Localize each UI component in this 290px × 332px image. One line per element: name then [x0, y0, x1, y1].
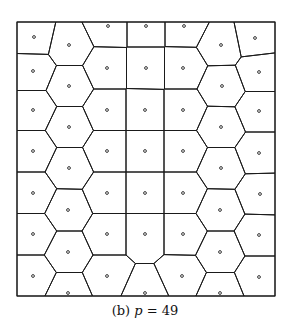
site-point — [221, 85, 224, 88]
caption-equation: = 49 — [147, 303, 179, 318]
site-point — [259, 193, 262, 196]
site-point — [144, 192, 147, 195]
voronoi-cell — [235, 132, 275, 174]
site-point — [106, 67, 109, 70]
site-point — [182, 67, 185, 70]
site-point — [68, 126, 71, 129]
voronoi-cell — [234, 214, 275, 256]
site-point — [145, 25, 148, 28]
site-point — [182, 233, 185, 236]
site-point — [106, 150, 109, 153]
site-point — [68, 85, 71, 88]
site-point — [219, 292, 222, 295]
voronoi-cell — [17, 214, 57, 256]
voronoi-cell — [17, 54, 56, 91]
voronoi-cell — [164, 214, 207, 256]
site-point — [220, 44, 223, 47]
voronoi-cell — [126, 214, 164, 264]
site-point — [258, 234, 261, 237]
site-point — [258, 152, 261, 155]
site-point — [32, 192, 35, 195]
site-point — [181, 275, 184, 278]
voronoi-cell — [83, 89, 126, 131]
site-point — [258, 276, 261, 279]
site-point — [144, 150, 147, 153]
site-point — [182, 150, 185, 153]
site-point — [219, 209, 222, 212]
caption-variable: p — [134, 303, 142, 318]
site-point — [106, 109, 109, 112]
site-point — [220, 126, 223, 129]
site-point — [144, 292, 147, 295]
voronoi-cell — [235, 173, 275, 215]
caption-label: (b) — [112, 303, 130, 318]
site-point — [182, 192, 185, 195]
site-point — [67, 209, 70, 212]
site-point — [254, 37, 257, 40]
voronoi-cell — [17, 131, 57, 173]
site-point — [106, 233, 109, 236]
site-point — [32, 275, 35, 278]
voronoi-cell — [165, 47, 208, 89]
voronoi-cell — [17, 172, 57, 214]
site-point — [32, 233, 35, 236]
voronoi-cell — [83, 131, 126, 173]
voronoi-cell — [17, 91, 57, 131]
site-point — [182, 109, 185, 112]
voronoi-cell — [17, 255, 56, 296]
site-point — [258, 71, 261, 74]
voronoi-cell — [235, 53, 275, 92]
site-point — [145, 67, 148, 70]
voronoi-cell — [82, 255, 135, 296]
site-point — [107, 25, 110, 28]
site-point — [32, 150, 35, 153]
site-point — [219, 251, 222, 254]
voronoi-cell — [83, 47, 127, 89]
site-point — [68, 167, 71, 170]
site-point — [106, 192, 109, 195]
site-point — [144, 109, 147, 112]
site-point — [220, 167, 223, 170]
voronoi-cells — [17, 22, 275, 296]
site-point — [183, 25, 186, 28]
voronoi-cell — [196, 22, 241, 66]
site-point — [32, 70, 35, 73]
voronoi-cell — [82, 214, 126, 256]
site-point — [32, 109, 35, 112]
figure-caption: (b) p = 49 — [0, 303, 290, 318]
voronoi-diagram — [0, 0, 290, 300]
voronoi-cell — [234, 256, 275, 296]
site-point — [68, 44, 71, 47]
site-point — [67, 292, 70, 295]
voronoi-cell — [82, 22, 127, 48]
voronoi-cell — [82, 172, 126, 214]
site-point — [144, 233, 147, 236]
site-point — [106, 275, 109, 278]
voronoi-cell — [235, 92, 275, 133]
site-point — [258, 110, 261, 113]
site-point — [33, 36, 36, 39]
site-point — [67, 251, 70, 254]
